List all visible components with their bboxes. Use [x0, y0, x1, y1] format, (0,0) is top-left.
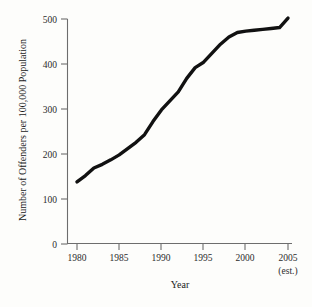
x-axis-tick-labels: 1980 1985 1990 1995 2000 2005 (est.): [68, 253, 298, 277]
y-tick-label-300: 300: [43, 105, 58, 115]
chart-figure: 500 400 300 200 100 0 1980 1985 1990 199…: [0, 0, 312, 307]
y-tick-label-200: 200: [43, 150, 58, 160]
x-tick-label-1985: 1985: [110, 253, 129, 263]
x-axis-title: Year: [171, 279, 190, 290]
y-axis-tick-labels: 500 400 300 200 100 0: [43, 15, 58, 250]
x-tick-label-1980: 1980: [68, 253, 87, 263]
x-tick-label-2005: 2005: [279, 253, 298, 263]
line-chart-canvas: 500 400 300 200 100 0 1980 1985 1990 199…: [0, 0, 312, 307]
x-axis-ticks: [77, 244, 288, 251]
data-series-line: [77, 18, 288, 182]
y-tick-label-500: 500: [43, 15, 58, 25]
x-tick-sublabel-est: (est.): [278, 266, 297, 277]
y-tick-label-400: 400: [43, 60, 58, 70]
x-tick-label-1990: 1990: [152, 253, 171, 263]
y-tick-label-100: 100: [43, 195, 58, 205]
y-axis-title: Number of Offenders per 100,000 Populati…: [17, 39, 28, 221]
y-axis-ticks: [61, 19, 68, 244]
x-tick-label-1995: 1995: [194, 253, 213, 263]
x-tick-label-2000: 2000: [236, 253, 255, 263]
y-tick-label-0: 0: [52, 240, 57, 250]
